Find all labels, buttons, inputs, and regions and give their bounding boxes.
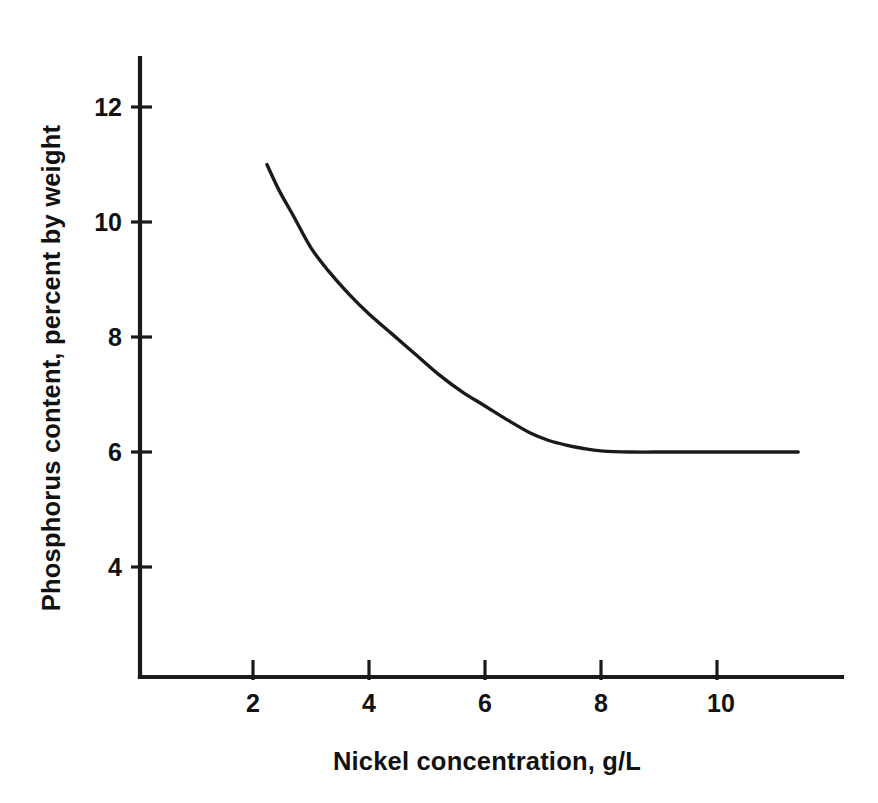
y-tick-label-12: 12 (94, 93, 122, 121)
data-series-line (267, 165, 798, 453)
x-tick-label-2: 2 (246, 689, 260, 717)
y-tick-label-6: 6 (108, 438, 122, 466)
y-axis-title: Phosphorus content, percent by weight (37, 125, 65, 612)
y-tick-label-10: 10 (94, 208, 122, 236)
x-tick-label-4: 4 (362, 689, 376, 717)
line-chart: 12 10 8 6 4 2 4 6 8 10 Nickel concentrat… (0, 0, 878, 803)
chart-figure: 12 10 8 6 4 2 4 6 8 10 Nickel concentrat… (0, 0, 878, 803)
x-tick-label-8: 8 (594, 689, 608, 717)
y-tick-label-4: 4 (108, 553, 122, 581)
x-axis-tick-labels: 2 4 6 8 10 (246, 689, 735, 717)
x-tick-label-6: 6 (478, 689, 492, 717)
x-tick-label-10: 10 (707, 689, 735, 717)
y-tick-label-8: 8 (108, 323, 122, 351)
x-axis-title: Nickel concentration, g/L (333, 747, 641, 775)
y-axis-tick-labels: 12 10 8 6 4 (94, 93, 122, 581)
